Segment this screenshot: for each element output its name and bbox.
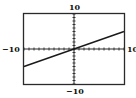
graph-window [0,0,136,98]
